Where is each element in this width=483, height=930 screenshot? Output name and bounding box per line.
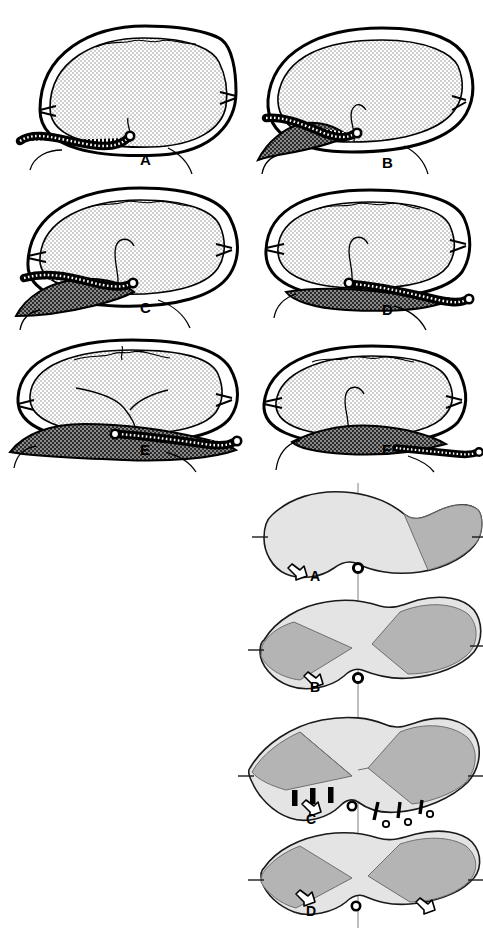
upper-panel-e: E xyxy=(10,340,241,472)
lower-panel-label-a: A xyxy=(310,568,320,584)
midline-node-c xyxy=(348,802,356,810)
lower-panel-a: A xyxy=(252,492,483,584)
midline-node-a xyxy=(353,563,362,572)
lower-panel-d: D xyxy=(248,831,483,919)
upper-panel-b: B xyxy=(258,28,473,174)
upper-panel-label-f: F xyxy=(382,441,391,458)
catheter-coil-f xyxy=(396,448,483,456)
lower-panel-label-c: C xyxy=(306,811,316,827)
lower-panel-label-b: B xyxy=(310,679,320,695)
upper-panel-label-e: E xyxy=(140,441,150,458)
upper-panel-label-b: B xyxy=(382,154,393,171)
midline-node-b xyxy=(353,673,362,682)
upper-panel-label-a: A xyxy=(140,151,151,168)
upper-panel-c: C xyxy=(16,188,238,330)
upper-panel-d: D xyxy=(266,190,473,330)
lower-panel-label-d: D xyxy=(306,903,316,919)
midline-node-d xyxy=(352,902,360,910)
upper-panel-f: F xyxy=(264,346,483,472)
lower-panel-b: B xyxy=(248,597,483,695)
upper-panel-label-d: D xyxy=(382,301,393,318)
lower-panel-c: C xyxy=(238,717,483,827)
upper-panel-a: A xyxy=(20,26,236,174)
figure-root: A B xyxy=(0,0,483,930)
anatomical-figure: A B xyxy=(0,0,483,930)
upper-panel-label-c: C xyxy=(140,299,151,316)
